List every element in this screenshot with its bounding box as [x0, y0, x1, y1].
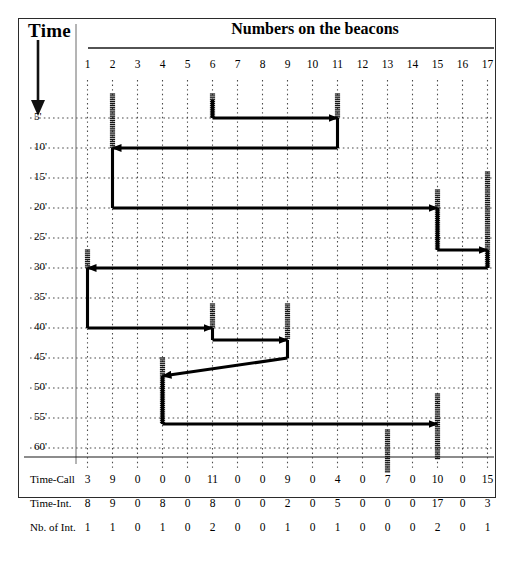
summary-cell: 0: [401, 497, 425, 509]
time-row-label: 40': [34, 320, 84, 332]
summary-cell: 2: [201, 521, 225, 533]
time-row-label: 55': [34, 410, 84, 422]
summary-cell: 0: [176, 473, 200, 485]
summary-cell: 0: [376, 497, 400, 509]
time-row-label: 45': [34, 350, 84, 362]
summary-cell: 0: [351, 497, 375, 509]
summary-cell: 0: [351, 473, 375, 485]
beacon-column-header: 3: [126, 58, 150, 70]
summary-cell: 1: [476, 521, 500, 533]
time-row-label: 25': [34, 230, 84, 242]
summary-cell: 0: [451, 521, 475, 533]
summary-cell: 5: [326, 497, 350, 509]
summary-cell: 0: [451, 473, 475, 485]
summary-cell: 3: [476, 497, 500, 509]
beacon-column-header: 14: [401, 58, 425, 70]
summary-cell: 8: [151, 497, 175, 509]
summary-cell: 1: [276, 521, 300, 533]
beacon-column-header: 4: [151, 58, 175, 70]
summary-cell: 0: [226, 473, 250, 485]
beacon-column-header: 15: [426, 58, 450, 70]
summary-cell: 11: [201, 473, 225, 485]
time-row-label: 60': [34, 440, 84, 452]
summary-cell: 9: [101, 473, 125, 485]
beacon-column-header: 7: [226, 58, 250, 70]
summary-cell: 8: [76, 497, 100, 509]
summary-cell: 3: [76, 473, 100, 485]
beacon-column-header: 9: [276, 58, 300, 70]
time-row-label: 15': [34, 170, 84, 182]
time-row-label: 50': [34, 380, 84, 392]
beacon-column-header: 8: [251, 58, 275, 70]
summary-cell: 9: [101, 497, 125, 509]
time-row-label: 20': [34, 200, 84, 212]
summary-cell: 2: [426, 521, 450, 533]
summary-cell: 0: [126, 497, 150, 509]
summary-cell: 17: [426, 497, 450, 509]
summary-cell: 9: [276, 473, 300, 485]
summary-cell: 0: [251, 521, 275, 533]
summary-cell: 15: [476, 473, 500, 485]
summary-cell: 1: [151, 521, 175, 533]
beacon-column-header: 2: [101, 58, 125, 70]
beacon-column-header: 17: [476, 58, 500, 70]
figure-frame: [18, 18, 496, 498]
summary-cell: 7: [376, 473, 400, 485]
summary-cell: 8: [201, 497, 225, 509]
beacon-column-header: 13: [376, 58, 400, 70]
summary-cell: 0: [251, 497, 275, 509]
summary-cell: 4: [326, 473, 350, 485]
summary-cell: 0: [351, 521, 375, 533]
beacon-column-header: 1: [76, 58, 100, 70]
summary-cell: 0: [301, 473, 325, 485]
summary-cell: 10: [426, 473, 450, 485]
time-row-label: 35': [34, 290, 84, 302]
time-row-label: 30': [34, 260, 84, 272]
summary-cell: 2: [276, 497, 300, 509]
beacon-column-header: 5: [176, 58, 200, 70]
summary-cell: 0: [251, 473, 275, 485]
beacon-timeline-figure: Time Numbers on the beacons 123456789101…: [0, 0, 515, 569]
summary-cell: 0: [176, 497, 200, 509]
summary-cell: 1: [326, 521, 350, 533]
summary-cell: 0: [301, 521, 325, 533]
summary-cell: 0: [451, 497, 475, 509]
summary-cell: 0: [226, 497, 250, 509]
time-row-label: 10': [34, 140, 84, 152]
summary-cell: 0: [401, 473, 425, 485]
time-row-label: 5': [34, 110, 84, 122]
summary-cell: 0: [176, 521, 200, 533]
beacon-column-header: 11: [326, 58, 350, 70]
beacon-column-header: 10: [301, 58, 325, 70]
summary-cell: 0: [226, 521, 250, 533]
summary-cell: 1: [101, 521, 125, 533]
beacon-column-header: 6: [201, 58, 225, 70]
summary-cell: 0: [376, 521, 400, 533]
summary-cell: 0: [401, 521, 425, 533]
summary-cell: 0: [126, 473, 150, 485]
summary-cell: 0: [126, 521, 150, 533]
summary-cell: 1: [76, 521, 100, 533]
time-axis-title: Time: [28, 20, 71, 42]
beacon-column-header: 12: [351, 58, 375, 70]
summary-cell: 0: [151, 473, 175, 485]
summary-cell: 0: [301, 497, 325, 509]
beacons-axis-title: Numbers on the beacons: [150, 20, 480, 38]
beacon-column-header: 16: [451, 58, 475, 70]
